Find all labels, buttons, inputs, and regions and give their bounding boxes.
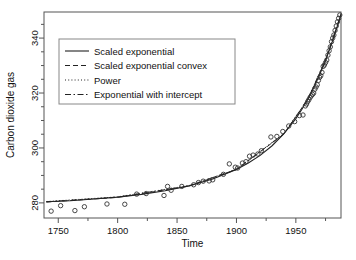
data-point-marker [269,135,273,139]
x-axis: 17501800185019001950 [48,218,326,236]
legend-label: Power [94,75,121,86]
data-point-marker [165,184,169,188]
data-point-marker [275,134,279,138]
data-point-marker [82,205,86,209]
y-tick-label: 280 [30,195,41,211]
data-point-marker [105,202,109,206]
data-point-marker [49,209,53,213]
y-tick-label: 300 [30,140,41,156]
data-point-marker [58,203,62,207]
data-point-marker [281,129,285,133]
data-point-marker [73,208,77,212]
y-tick-label: 340 [30,30,41,46]
x-tick-label: 1800 [107,225,128,236]
chart-legend: Scaled exponentialScaled exponential con… [59,39,235,104]
y-axis-title: Carbon dioxide gas [5,72,16,158]
y-tick-label: 320 [30,85,41,101]
legend-label: Scaled exponential convex [94,60,207,71]
legend-label: Exponential with intercept [94,89,203,100]
data-point-marker [162,193,166,197]
x-tick-label: 1850 [166,225,187,236]
x-tick-label: 1950 [285,225,306,236]
legend-label: Scaled exponential [94,46,174,57]
chart-figure: 17501800185019001950280300320340TimeCarb… [0,0,356,260]
x-tick-label: 1750 [48,225,69,236]
x-axis-title: Time [182,238,204,249]
x-tick-label: 1900 [226,225,247,236]
data-point-marker [227,162,231,166]
y-axis: 280300320340 [30,24,45,210]
data-point-marker [123,202,127,206]
co2-scatter-plot: 17501800185019001950280300320340TimeCarb… [0,0,356,260]
